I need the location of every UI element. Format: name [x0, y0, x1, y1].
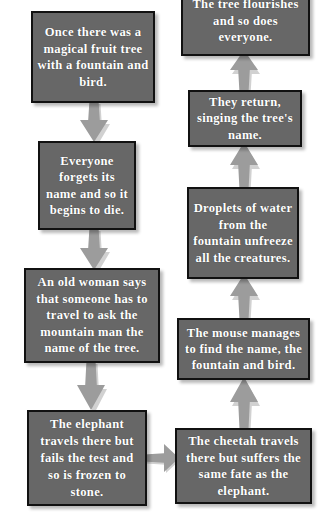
node-droplets: Droplets of water from the fountain unfr… [187, 187, 299, 279]
node-tree-flourishes: The tree flourishes and so does everyone… [181, 0, 310, 56]
node-text: The elephant travels there but fails the… [29, 416, 145, 501]
arrow-forget-to-oldwoman [76, 227, 110, 273]
node-text: Everyone forgets its name and so it begi… [40, 153, 134, 219]
node-old-woman: An old woman says that someone has to tr… [24, 268, 160, 363]
node-everyone-forgets: Everyone forgets its name and so it begi… [38, 141, 136, 230]
node-text: The cheetah travels there but suffers th… [177, 433, 310, 499]
node-mouse: The mouse manages to find the name, the … [177, 318, 310, 380]
node-text: The mouse manages to find the name, the … [179, 325, 308, 373]
node-text: They return, singing the tree's name. [190, 94, 300, 144]
node-they-return: They return, singing the tree's name. [188, 90, 302, 147]
node-text: The tree flourishes and so does everyone… [183, 0, 308, 46]
node-cheetah: The cheetah travels there but suffers th… [175, 428, 312, 504]
flowchart-canvas: Once there was a magical fruit tree with… [0, 0, 327, 517]
node-elephant: The elephant travels there but fails the… [27, 410, 147, 506]
arrow-oldwoman-to-elephant [73, 360, 107, 414]
node-text: An old woman says that someone has to tr… [26, 274, 158, 357]
arrow-tree-to-forget [76, 100, 110, 145]
node-text: Once there was a magical fruit tree with… [33, 24, 153, 90]
node-magical-fruit-tree: Once there was a magical fruit tree with… [31, 11, 155, 103]
arrow-droplets-to-return [226, 142, 260, 192]
arrow-cheetah-to-mouse [226, 377, 260, 431]
arrow-return-to-flourish [226, 50, 260, 95]
node-text: Droplets of water from the fountain unfr… [189, 200, 297, 266]
arrow-mouse-to-droplets [226, 274, 260, 322]
